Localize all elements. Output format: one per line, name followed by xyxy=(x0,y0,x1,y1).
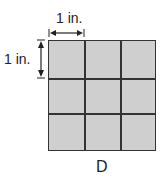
grid-line xyxy=(120,41,122,150)
square-grid xyxy=(48,40,156,151)
grid-line xyxy=(49,78,155,80)
grid-line xyxy=(49,113,155,115)
grid-line xyxy=(84,41,86,150)
figure-caption: D xyxy=(96,160,108,174)
